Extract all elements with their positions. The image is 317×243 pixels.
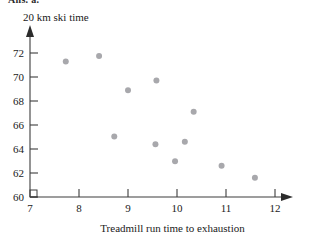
y-axis-ticks: 60626466687072 bbox=[13, 47, 38, 203]
scatter-plot-figure: Ans. a. 20 km ski time 60626466687072 78… bbox=[0, 0, 317, 243]
x-axis-title-wrap: Treadmill run time to exhaustion bbox=[0, 222, 317, 234]
y-tick-label: 66 bbox=[13, 119, 25, 131]
data-points bbox=[63, 53, 258, 181]
data-point bbox=[125, 87, 131, 93]
x-tick-label: 8 bbox=[76, 202, 82, 214]
y-tick-label: 68 bbox=[13, 95, 25, 107]
x-tick-label: 10 bbox=[172, 202, 184, 214]
data-point bbox=[172, 158, 178, 164]
y-axis-arrow-icon bbox=[26, 25, 34, 37]
y-tick-label: 62 bbox=[13, 167, 24, 179]
x-tick-label: 11 bbox=[221, 202, 232, 214]
data-point bbox=[96, 53, 102, 59]
axis-break-marker bbox=[30, 190, 37, 197]
data-point bbox=[111, 133, 117, 139]
data-point bbox=[182, 139, 188, 145]
x-axis-arrow-icon bbox=[281, 193, 293, 201]
data-point bbox=[252, 175, 258, 181]
y-tick-label: 70 bbox=[13, 71, 25, 83]
plot-canvas: 60626466687072 789101112 bbox=[0, 0, 317, 243]
x-axis-ticks: 789101112 bbox=[27, 189, 280, 214]
x-tick-label: 7 bbox=[27, 202, 33, 214]
y-tick-label: 72 bbox=[13, 47, 24, 59]
x-tick-label: 12 bbox=[270, 202, 281, 214]
y-tick-label: 64 bbox=[13, 143, 25, 155]
x-tick-label: 9 bbox=[125, 202, 131, 214]
y-tick-label: 60 bbox=[13, 191, 25, 203]
data-point bbox=[63, 58, 69, 64]
data-point bbox=[152, 141, 158, 147]
data-point bbox=[153, 78, 159, 84]
x-axis-title: Treadmill run time to exhaustion bbox=[72, 222, 244, 234]
data-point bbox=[191, 109, 197, 115]
data-point bbox=[219, 163, 225, 169]
